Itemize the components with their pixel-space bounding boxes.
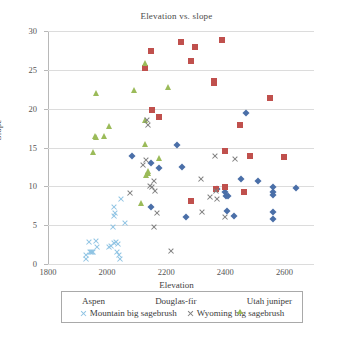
data-point: [115, 251, 122, 258]
gridline: [48, 225, 314, 226]
data-point: [89, 248, 96, 255]
data-point: [129, 152, 136, 159]
data-point: [151, 187, 158, 194]
data-point: [178, 39, 184, 45]
gridline: [48, 148, 314, 149]
data-point: [142, 60, 148, 66]
x-icon: [80, 310, 87, 317]
data-point: [86, 248, 93, 255]
data-point: [219, 37, 225, 43]
data-point: [242, 109, 249, 116]
data-point: [148, 48, 154, 54]
x-tick-label: 2000: [99, 267, 116, 277]
data-point: [183, 214, 190, 221]
y-tick-label: 0: [0, 259, 37, 269]
data-point: [83, 256, 90, 263]
data-point: [254, 177, 261, 184]
data-point: [192, 44, 198, 50]
plot-area: [48, 31, 314, 264]
y-tick-label: 25: [0, 65, 37, 75]
data-point: [144, 117, 151, 124]
data-point: [139, 161, 146, 168]
legend-row-2: Mountain big sagebrush Wyoming big sageb…: [66, 307, 298, 319]
data-point: [131, 87, 137, 93]
data-point: [211, 78, 217, 84]
data-point: [267, 95, 273, 101]
data-point: [127, 189, 134, 196]
data-point: [106, 243, 113, 250]
data-point: [214, 196, 221, 203]
x-icon: [187, 310, 194, 317]
legend-label: Douglas-fir: [155, 295, 197, 307]
data-point: [115, 240, 122, 247]
data-point: [92, 133, 98, 139]
data-point: [148, 159, 155, 166]
data-point: [230, 213, 237, 220]
data-point: [110, 240, 117, 247]
data-point: [87, 249, 94, 256]
y-tick-label: 30: [0, 26, 37, 36]
data-point: [231, 155, 238, 162]
data-point: [167, 247, 174, 254]
data-point: [111, 203, 118, 210]
data-point: [112, 239, 119, 246]
diamond-icon: [72, 298, 79, 305]
data-point: [222, 192, 229, 199]
data-point: [113, 248, 120, 255]
data-point: [269, 215, 276, 222]
chart-legend: Aspen Douglas-fir Utah juniper Mountain …: [61, 291, 303, 323]
square-icon: [145, 298, 152, 305]
data-point: [188, 198, 194, 204]
legend-item-wyoming-big-sagebrush[interactable]: Wyoming big sagebrush: [187, 307, 284, 319]
data-point: [211, 80, 217, 86]
data-point: [142, 117, 148, 123]
data-point: [198, 208, 205, 215]
triangle-icon: [237, 298, 244, 305]
data-point: [222, 148, 228, 154]
data-point: [118, 196, 125, 203]
data-point: [156, 155, 162, 161]
gridline: [48, 186, 314, 187]
data-point: [101, 133, 107, 139]
data-point: [269, 192, 276, 199]
data-point: [88, 249, 95, 256]
legend-item-mountain-big-sagebrush[interactable]: Mountain big sagebrush: [80, 307, 177, 319]
legend-label: Utah juniper: [247, 295, 292, 307]
x-axis-title: Elevation: [0, 280, 353, 290]
data-point: [211, 153, 218, 160]
data-point: [92, 238, 99, 245]
legend-item-utah-juniper[interactable]: Utah juniper: [237, 295, 292, 307]
data-point: [142, 156, 149, 163]
legend-item-aspen[interactable]: Aspen: [72, 295, 105, 307]
data-point: [178, 163, 185, 170]
data-point: [93, 134, 99, 140]
legend-row-1: Aspen Douglas-fir Utah juniper: [66, 295, 298, 307]
data-point: [153, 210, 160, 217]
data-point: [148, 203, 155, 210]
scatter-chart: Elevation vs. slope Slope Elevation 0510…: [0, 0, 353, 339]
legend-label: Aspen: [82, 295, 105, 307]
y-tick-label: 15: [0, 143, 37, 153]
data-point: [270, 188, 277, 195]
data-point: [241, 189, 247, 195]
data-point: [93, 90, 99, 96]
legend-label: Mountain big sagebrush: [90, 307, 177, 319]
data-point: [206, 194, 213, 201]
data-point: [111, 209, 118, 216]
data-point: [270, 209, 277, 216]
data-point: [165, 84, 171, 90]
data-point: [223, 207, 230, 214]
data-point: [106, 123, 112, 129]
data-point: [212, 188, 219, 195]
y-tick-label: 20: [0, 104, 37, 114]
chart-title: Elevation vs. slope: [0, 11, 353, 21]
data-point: [150, 177, 157, 184]
data-point: [143, 172, 149, 178]
legend-item-douglas-fir[interactable]: Douglas-fir: [145, 295, 197, 307]
data-point: [156, 114, 162, 120]
data-point: [145, 121, 152, 128]
data-point: [247, 153, 253, 159]
data-point: [281, 154, 287, 160]
data-point: [155, 165, 162, 172]
x-tick-label: 2400: [217, 267, 234, 277]
